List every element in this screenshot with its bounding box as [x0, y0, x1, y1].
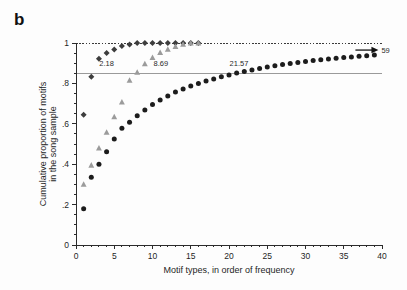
- data-point-medium-repertoire: [157, 50, 163, 56]
- x-tick-label: 20: [224, 251, 234, 261]
- annotation-sample-size-label: 59: [381, 46, 389, 55]
- annotation-mean-large-repertoire: 21.57: [230, 59, 249, 68]
- data-point-medium-repertoire: [81, 181, 87, 187]
- data-point-large-repertoire: [142, 108, 147, 113]
- chart-canvas: 05101520253035400.2.4.6.81Motif types, i…: [0, 0, 407, 290]
- data-point-large-repertoire: [349, 54, 354, 59]
- data-point-large-repertoire: [364, 53, 369, 58]
- data-point-large-repertoire: [341, 55, 346, 60]
- data-point-small-repertoire: [127, 41, 133, 47]
- data-point-large-repertoire: [227, 72, 232, 77]
- x-tick-label: 5: [112, 251, 117, 261]
- data-point-medium-repertoire: [111, 114, 117, 120]
- data-point-large-repertoire: [288, 61, 293, 66]
- data-point-medium-repertoire: [88, 162, 94, 168]
- data-point-large-repertoire: [280, 62, 285, 67]
- data-point-large-repertoire: [372, 53, 377, 58]
- data-point-large-repertoire: [249, 68, 254, 73]
- data-point-small-repertoire: [81, 112, 87, 118]
- y-tick-label: .2: [62, 200, 69, 210]
- data-point-medium-repertoire: [119, 99, 125, 105]
- data-point-large-repertoire: [158, 97, 163, 102]
- data-point-medium-repertoire: [127, 77, 133, 83]
- series-large-repertoire: [81, 53, 377, 212]
- data-point-medium-repertoire: [96, 145, 102, 151]
- data-point-large-repertoire: [81, 206, 86, 211]
- x-tick-label: 35: [339, 251, 349, 261]
- data-point-large-repertoire: [219, 74, 224, 79]
- data-point-large-repertoire: [326, 56, 331, 61]
- y-tick-label: .6: [62, 119, 69, 129]
- data-point-large-repertoire: [89, 175, 94, 180]
- x-tick-label: 10: [148, 251, 158, 261]
- x-tick-label: 30: [301, 251, 311, 261]
- data-point-small-repertoire: [119, 43, 125, 49]
- data-point-large-repertoire: [357, 54, 362, 59]
- data-point-large-repertoire: [311, 58, 316, 63]
- data-point-medium-repertoire: [165, 46, 171, 52]
- data-point-small-repertoire: [111, 46, 117, 52]
- data-point-large-repertoire: [196, 81, 201, 86]
- data-point-large-repertoire: [272, 63, 277, 68]
- x-tick-label: 15: [186, 251, 196, 261]
- data-point-small-repertoire: [165, 40, 171, 46]
- data-point-large-repertoire: [303, 59, 308, 64]
- series-small-repertoire: [81, 40, 202, 118]
- data-point-large-repertoire: [173, 90, 178, 95]
- data-point-large-repertoire: [265, 65, 270, 70]
- data-point-large-repertoire: [104, 149, 109, 154]
- data-point-large-repertoire: [165, 93, 170, 98]
- data-point-small-repertoire: [88, 74, 94, 80]
- y-tick-label: 0: [64, 240, 69, 250]
- x-axis-title: Motif types, in order of frequency: [163, 265, 295, 275]
- data-point-large-repertoire: [96, 162, 101, 167]
- x-tick-label: 40: [377, 251, 387, 261]
- y-tick-label: 1: [64, 38, 69, 48]
- data-point-large-repertoire: [204, 78, 209, 83]
- sample-size-arrow-head: [371, 47, 378, 53]
- data-point-large-repertoire: [119, 126, 124, 131]
- data-point-small-repertoire: [150, 40, 156, 46]
- data-point-medium-repertoire: [104, 129, 110, 135]
- data-point-large-repertoire: [257, 66, 262, 71]
- data-point-large-repertoire: [127, 120, 132, 125]
- data-point-large-repertoire: [150, 102, 155, 107]
- data-point-large-repertoire: [112, 136, 117, 141]
- data-point-large-repertoire: [181, 87, 186, 92]
- data-point-large-repertoire: [211, 76, 216, 81]
- data-point-large-repertoire: [334, 56, 339, 61]
- data-point-large-repertoire: [135, 113, 140, 118]
- x-tick-label: 0: [74, 251, 79, 261]
- annotation-mean-medium-repertoire: 8.69: [154, 59, 169, 68]
- data-point-small-repertoire: [157, 40, 163, 46]
- y-tick-label: .4: [62, 159, 69, 169]
- data-point-medium-repertoire: [173, 44, 179, 50]
- data-point-large-repertoire: [318, 57, 323, 62]
- data-point-large-repertoire: [242, 69, 247, 74]
- data-point-small-repertoire: [134, 40, 140, 46]
- y-axis-title-line2: in the song sample: [48, 106, 58, 182]
- x-tick-label: 25: [263, 251, 273, 261]
- data-point-medium-repertoire: [142, 61, 148, 67]
- y-axis-title-line1: Cumulative proportion of motifs: [38, 81, 48, 206]
- data-point-large-repertoire: [234, 71, 239, 76]
- annotation-mean-small-repertoire: 2.18: [99, 59, 114, 68]
- data-point-medium-repertoire: [134, 69, 140, 75]
- data-point-large-repertoire: [188, 84, 193, 89]
- y-tick-label: .8: [62, 78, 69, 88]
- figure-panel: b 05101520253035400.2.4.6.81Motif types,…: [0, 0, 407, 290]
- data-point-large-repertoire: [295, 60, 300, 65]
- data-point-small-repertoire: [104, 50, 110, 56]
- data-point-small-repertoire: [142, 40, 148, 46]
